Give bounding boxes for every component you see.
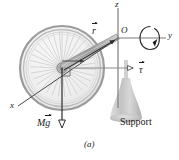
tau-symbol: τ — [139, 64, 143, 75]
figure-drawing — [0, 0, 179, 160]
weight-vector-label: M g — [37, 118, 50, 128]
gyroscope-figure: z y x O r τ M g Support (a) — [0, 0, 179, 160]
mass-symbol: M — [37, 117, 45, 128]
vector-arrow-overbar — [92, 23, 97, 24]
vector-arrow-overbar — [45, 115, 51, 116]
torque-vector-label: τ — [139, 65, 143, 75]
vector-arrow-overbar — [139, 62, 144, 63]
gravity-symbol: g — [45, 117, 50, 128]
z-axis-label: z — [115, 0, 119, 9]
figure-caption: (a) — [84, 140, 95, 149]
y-axis-label: y — [168, 31, 172, 40]
support-label: Support — [120, 117, 152, 127]
origin-label: O — [121, 26, 128, 35]
position-vector-label: r — [92, 26, 96, 36]
x-axis-label: x — [10, 101, 14, 110]
support-stand — [110, 60, 142, 122]
r-symbol: r — [92, 25, 96, 36]
